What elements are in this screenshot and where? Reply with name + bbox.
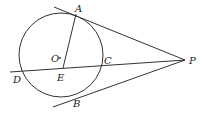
label-a: A — [74, 3, 82, 14]
center-dot — [59, 57, 61, 59]
chord-ae — [63, 14, 76, 68]
label-e: E — [56, 72, 65, 83]
label-d: D — [12, 74, 21, 85]
label-c: C — [104, 55, 112, 66]
label-p: P — [188, 55, 196, 66]
circle-o — [19, 13, 103, 97]
label-o: O — [51, 53, 59, 64]
tangent-pa — [54, 7, 185, 60]
label-b: B — [72, 98, 80, 109]
geometry-diagram: A B C D E O P — [0, 0, 206, 118]
secant-pd — [10, 60, 185, 72]
